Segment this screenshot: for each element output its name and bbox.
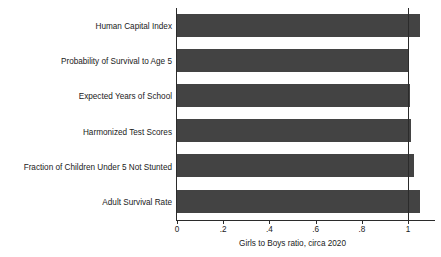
x-axis-ticks: 0.2.4.6.81 [0, 220, 441, 240]
bar-harmonized-test-scores [177, 119, 411, 142]
y-axis-label-5: Adult Survival Rate [4, 198, 172, 208]
x-tick-mark-3 [316, 220, 317, 224]
bar-human-capital-index [177, 14, 420, 37]
x-tick-label-0: 0 [175, 225, 180, 235]
bar-expected-years-of-school [177, 84, 410, 107]
bar-row [177, 184, 435, 219]
bar-row [177, 8, 435, 43]
bar-row [177, 43, 435, 78]
x-tick-label-2: .4 [266, 225, 273, 235]
y-axis-label-0: Human Capital Index [4, 22, 172, 32]
x-tick-label-3: .6 [312, 225, 319, 235]
y-axis-label-1: Probability of Survival to Age 5 [4, 57, 172, 67]
x-axis-title: Girls to Boys ratio, circa 2020 [177, 238, 408, 249]
y-axis-labels: Human Capital Index Probability of Survi… [0, 8, 172, 219]
reference-line-at-one [408, 8, 409, 220]
bar-row [177, 78, 435, 113]
x-tick-label-4: .8 [358, 225, 365, 235]
x-tick-mark-5 [408, 220, 409, 224]
bar-row [177, 113, 435, 148]
x-tick-mark-0 [177, 220, 178, 224]
y-axis-label-3: Harmonized Test Scores [4, 128, 172, 138]
chart-container: Human Capital Index Probability of Survi… [0, 0, 441, 257]
x-tick-mark-2 [269, 220, 270, 224]
x-tick-label-1: .2 [220, 225, 227, 235]
y-axis-spine [176, 8, 177, 220]
bar-adult-survival-rate [177, 190, 420, 213]
x-tick-mark-1 [223, 220, 224, 224]
x-tick-mark-4 [362, 220, 363, 224]
y-axis-label-2: Expected Years of School [4, 92, 172, 102]
bar-row [177, 148, 435, 183]
x-tick-label-5: 1 [406, 225, 411, 235]
bar-fraction-of-children-under-5-not-stunted [177, 154, 414, 177]
y-axis-label-4: Fraction of Children Under 5 Not Stunted [4, 163, 172, 173]
bar-probability-of-survival-to-age-5 [177, 49, 408, 72]
plot-area [177, 8, 435, 219]
